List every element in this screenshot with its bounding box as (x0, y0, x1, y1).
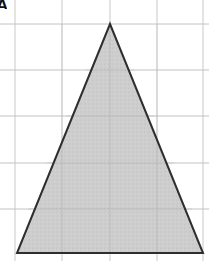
figure-container: A (0, 0, 209, 261)
geometry-figure (0, 0, 209, 261)
figure-label: A (0, 0, 7, 9)
